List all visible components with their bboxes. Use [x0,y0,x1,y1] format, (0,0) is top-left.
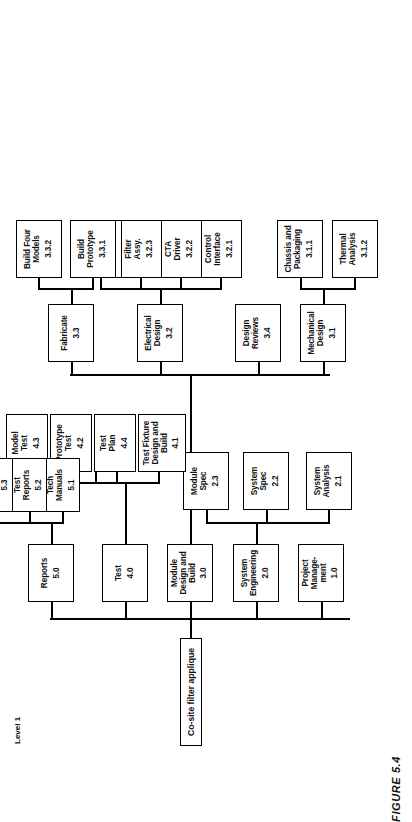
node-3-1-1-title: Chassis and Packaging [285,225,303,272]
connector-stub-3-1-2 [354,278,356,290]
node-3-2-1[interactable]: Control Interface 3.2.1 [198,220,242,278]
node-5-3-number: 5.3 [1,479,10,490]
connector-stub-3-2-2 [180,278,182,290]
connector-stub-4-4 [116,472,118,484]
connector-stub-5-2 [29,512,31,524]
node-3-0[interactable]: Module Design and Build 3.0 [167,544,213,602]
node-root-title: Co-site filter applique [186,648,196,736]
node-3-3-title: Fabricate [61,315,70,351]
node-2-0-number: 2.0 [262,567,271,578]
connector-stub-5-0 [51,602,53,620]
node-4-2-title: Prototype Test [56,424,74,461]
node-2-1[interactable]: System Analysis 2.1 [306,452,352,510]
node-3-2-2-title: CTA Driver [165,237,183,260]
node-2-2[interactable]: System Spec 2.2 [243,452,289,510]
node-4-0-title: Test [115,565,124,581]
node-4-1[interactable]: Test Fixture Design and Build 4.1 [138,414,186,472]
node-4-0-number: 4.0 [127,567,136,578]
node-3-0-number: 3.0 [200,567,209,578]
connector-2-0-out [256,522,258,544]
node-4-4-number: 4.4 [121,437,130,448]
connector-stub-3-3-2 [38,278,40,290]
node-3-2-3[interactable]: Filter Assy. 3.2.3 [118,220,162,278]
connector-level2-bus [50,618,350,620]
node-5-0-number: 5.0 [53,567,62,578]
node-3-3-1-number: 3.3.1 [99,240,108,258]
node-2-1-number: 2.1 [335,475,344,486]
connector-stub-2-0 [256,602,258,620]
connector-stub-3-2 [160,362,162,376]
connector-4-0-out [125,482,127,544]
connector-stub-4-1 [158,472,160,484]
node-2-2-number: 2.2 [272,475,281,486]
connector-stub-3-1-1 [300,278,302,290]
node-5-1-number: 5.1 [68,479,77,490]
node-4-0[interactable]: Test 4.0 [102,544,148,602]
node-root[interactable]: Co-site filter applique [180,638,202,746]
connector-3-1-out [323,288,325,304]
node-2-3[interactable]: Module Spec 2.3 [183,452,229,510]
node-2-2-title: System Spec [251,467,269,496]
node-3-1[interactable]: Mechanical Design 3.1 [300,304,346,362]
node-5-0[interactable]: Reports 5.0 [28,544,74,602]
node-4-4-title: Test Plan [100,435,118,452]
node-3-1-2-title: Thermal Analysis [340,233,358,266]
connector-5-children-bus [0,522,64,524]
node-3-1-1-number: 3.1.1 [306,240,315,258]
node-3-2-3-number: 3.2.3 [146,240,155,258]
connector-3-1-bus [300,288,356,290]
connector-stub-4-0 [125,602,127,620]
node-1-0[interactable]: Project Manage- ment 1.0 [298,544,344,602]
wbs-diagram: Level 1 Co-site filter applique Project … [10,12,402,752]
connector-stub-3-3-1 [92,278,94,290]
connector-stub-2-3 [206,510,208,524]
node-3-2-3-title: Filter Assy. [125,239,143,260]
node-3-2-2-number: 3.2.2 [186,240,195,258]
node-4-1-number: 4.1 [172,437,181,448]
connector-3-3-bus [38,288,94,290]
node-3-1-1[interactable]: Chassis and Packaging 3.1.1 [277,220,323,278]
node-3-3-2-title: Build Four Models [24,229,42,269]
node-5-3[interactable]: Final Reports 5.3 [0,458,13,512]
node-2-0[interactable]: System Engineering 2.0 [233,544,279,602]
connector-stub-3-1 [323,362,325,376]
node-3-1-2-number: 3.1.2 [361,240,370,258]
connector-stub-2-2 [266,510,268,524]
node-3-2[interactable]: Electrical Design 3.2 [137,304,183,362]
node-3-1-number: 3.1 [329,327,338,338]
node-4-3-title: Model Test [12,431,30,454]
node-2-3-title: Module Spec [191,467,209,495]
node-3-3-2-number: 3.3.2 [45,240,54,258]
node-3-4[interactable]: Design Reviews 3.4 [235,304,281,362]
connector-stub-3-2-1 [220,278,222,290]
node-3-3-2[interactable]: Build Four Models 3.3.2 [16,220,62,278]
node-3-3[interactable]: Fabricate 3.3 [48,304,94,362]
connector-5-0-out [51,522,53,544]
node-5-2-number: 5.2 [35,479,44,490]
node-3-2-number: 3.2 [166,327,175,338]
node-5-1[interactable]: Tech Manuals 5.1 [44,458,80,512]
figure-caption: FIGURE 5.4 [390,756,402,822]
node-5-0-title: Reports [41,558,50,588]
node-2-1-title: System Analysis [314,465,332,498]
node-3-3-number: 3.3 [73,327,82,338]
connector-stub-3-3 [71,362,73,376]
node-4-4[interactable]: Test Plan 4.4 [94,414,136,472]
connector-stub-1-0 [321,602,323,620]
node-4-3-number: 4.3 [33,437,42,448]
node-3-1-2[interactable]: Thermal Analysis 3.1.2 [332,220,378,278]
connector-stub-4-2 [95,472,97,484]
node-3-4-number: 3.4 [264,327,273,338]
connector-3-children-bus [70,374,330,376]
node-3-1-title: Mechanical Design [308,311,326,354]
connector-3-3-out [71,288,73,304]
node-3-2-2[interactable]: CTA Driver 3.2.2 [158,220,202,278]
node-3-2-1-number: 3.2.1 [226,240,235,258]
node-1-0-number: 1.0 [331,567,340,578]
node-3-3-1[interactable]: Build Prototype 3.3.1 [70,220,116,278]
node-5-2[interactable]: Test Reports 5.2 [11,458,47,512]
node-5-1-title: Tech Manuals [47,469,65,501]
connector-stub-2-1 [328,510,330,524]
node-3-2-1-title: Control Interface [205,232,223,265]
